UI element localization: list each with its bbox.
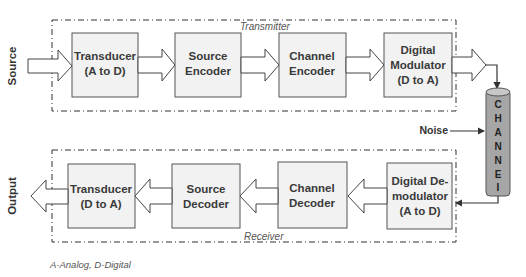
block-text: Decoder	[183, 198, 230, 210]
block-text: (A to D)	[399, 205, 440, 217]
flow-arrow	[346, 49, 384, 81]
flow-arrow	[348, 179, 387, 213]
source-label: Source	[6, 47, 18, 86]
svg-text:A: A	[494, 127, 501, 138]
channel-cylinder: C H A N N E I	[486, 88, 510, 196]
block-diagram: Transmitter Receiver Source Transducer (…	[0, 0, 526, 277]
block-text: Digital	[400, 44, 435, 56]
block-text: Modulator	[390, 59, 446, 71]
from-channel-line	[456, 196, 498, 203]
footnote: A-Analog, D-Digital	[49, 259, 132, 270]
svg-text:C: C	[494, 99, 501, 110]
block-text: Encoder	[289, 65, 336, 77]
receiver-label: Receiver	[244, 231, 284, 242]
svg-text:H: H	[494, 113, 501, 124]
channel-decoder-block	[278, 162, 347, 228]
transducer-da-block	[68, 164, 135, 228]
flow-arrow	[240, 179, 278, 213]
flow-arrow	[135, 179, 172, 213]
svg-text:N: N	[494, 155, 501, 166]
svg-text:N: N	[494, 141, 501, 152]
block-text: (D to A)	[80, 198, 121, 210]
block-text: (A to D)	[84, 65, 125, 77]
block-text: Digital De-	[392, 175, 449, 187]
block-text: Transducer	[70, 183, 133, 195]
source-decoder-block	[172, 164, 240, 228]
block-text: Encoder	[185, 65, 232, 77]
svg-text:I: I	[497, 182, 500, 193]
flow-arrow	[452, 49, 486, 81]
block-text: Channel	[289, 182, 334, 194]
block-text: (D to A)	[397, 74, 438, 86]
block-text: Transducer	[74, 50, 137, 62]
flow-arrow	[138, 49, 175, 81]
block-text: Source	[189, 50, 228, 62]
svg-text:E: E	[495, 169, 502, 180]
source-arrow	[28, 50, 72, 81]
transmitter-label: Transmitter	[240, 21, 290, 32]
flow-arrow	[241, 49, 279, 81]
to-channel-line	[486, 65, 497, 88]
output-label: Output	[6, 177, 18, 215]
block-text: Decoder	[289, 197, 336, 209]
noise-label: Noise	[419, 124, 448, 136]
block-text: Source	[187, 183, 226, 195]
output-arrow	[31, 180, 68, 212]
block-text: modulator	[392, 190, 449, 202]
block-text: Channel	[289, 50, 334, 62]
